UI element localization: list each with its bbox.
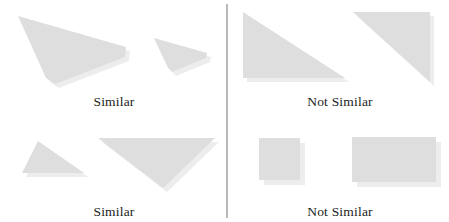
small-quadrilateral — [154, 38, 207, 72]
small-triangle-shadow — [26, 145, 88, 177]
large-quadrilateral — [18, 16, 126, 84]
caption-top-right: Not Similar — [280, 95, 400, 109]
shapes-canvas — [0, 0, 449, 222]
wide-rectangle-shadow — [357, 142, 441, 187]
small-triangle — [22, 141, 84, 173]
caption-bottom-left: Similar — [54, 205, 174, 219]
small-quadrilateral-shadow — [158, 42, 211, 76]
caption-bottom-right: Not Similar — [280, 205, 400, 219]
square-shadow — [264, 143, 305, 185]
right-triangle-corner-top-right-shadow — [357, 16, 434, 86]
large-triangle — [98, 138, 215, 188]
right-triangle-corner-top-right — [353, 12, 430, 82]
right-triangle-corner-bottom-left-shadow — [247, 16, 349, 82]
similar-shapes-figure: Similar Not Similar Similar Not Similar — [0, 0, 449, 222]
right-triangle-corner-bottom-left — [243, 12, 345, 78]
square — [259, 138, 300, 180]
caption-top-left: Similar — [54, 95, 174, 109]
large-triangle-shadow — [102, 142, 219, 192]
large-quadrilateral-shadow — [22, 20, 130, 88]
wide-rectangle — [352, 137, 436, 182]
vertical-divider — [226, 4, 228, 218]
